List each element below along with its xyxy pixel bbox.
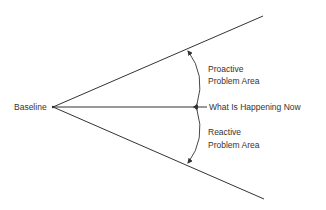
lower-boundary-line — [53, 107, 264, 199]
now-label: What Is Happening Now — [209, 101, 301, 113]
proactive-arc-arrow — [188, 51, 200, 104]
reactive-label-line2: Problem Area — [208, 139, 260, 151]
reactive-label-line1: Reactive — [208, 126, 241, 138]
proactive-label-line2: Problem Area — [208, 75, 260, 87]
baseline-point — [52, 106, 54, 108]
upper-boundary-line — [53, 16, 263, 107]
reactive-arc-arrow — [188, 110, 200, 163]
baseline-label: Baseline — [14, 101, 47, 113]
proactive-label-line1: Proactive — [208, 63, 243, 75]
